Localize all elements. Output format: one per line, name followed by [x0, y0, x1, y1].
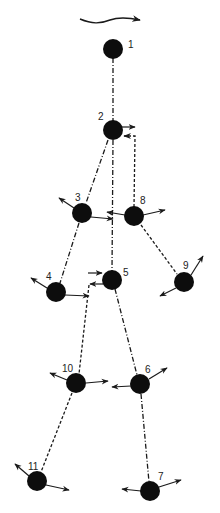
arrow-4-right [65, 295, 89, 296]
node-5 [102, 270, 122, 290]
vector-arrows [15, 127, 203, 491]
edge-10-11 [41, 393, 72, 472]
edge-6-7 [141, 394, 149, 482]
arrow-11-right [46, 485, 69, 490]
arrow-9-up [191, 256, 203, 275]
node-9 [174, 272, 194, 292]
skeleton-diagram: 1 2 3 4 5 6 7 8 9 10 11 [0, 0, 220, 513]
motion-direction-arrow [80, 18, 140, 23]
arrow-8-left [107, 212, 125, 215]
arrow-6-right [149, 368, 167, 379]
arrow-11-upleft [15, 464, 29, 476]
arrow-6-left [112, 386, 131, 387]
edge-2-3 [86, 140, 108, 203]
arrow-9-downleft [160, 288, 176, 296]
arrow-3-upleft [59, 198, 74, 208]
label-4: 4 [46, 271, 52, 282]
arrow-8-right [143, 210, 165, 215]
node-6 [130, 374, 150, 394]
arrow-3-right [91, 217, 113, 219]
node-labels: 1 2 3 4 5 6 7 8 9 10 11 [28, 39, 189, 482]
arrow-7-left [122, 489, 141, 491]
node-2 [103, 120, 123, 140]
node-11 [27, 471, 47, 491]
label-2: 2 [98, 111, 104, 122]
label-6: 6 [145, 364, 151, 375]
edge-3-4 [60, 223, 79, 283]
node-10 [66, 373, 86, 393]
node-3 [72, 203, 92, 223]
node-8 [124, 206, 144, 226]
arrow-4-upleft [31, 278, 47, 288]
edge-8-9 [141, 225, 177, 274]
edge-2-5 [112, 140, 113, 271]
label-5: 5 [123, 267, 129, 278]
label-3: 3 [75, 192, 81, 203]
nodes [27, 39, 194, 501]
edge-5-6 [115, 289, 137, 375]
label-8: 8 [140, 195, 146, 206]
label-11: 11 [28, 461, 39, 472]
label-7: 7 [158, 471, 164, 482]
label-1: 1 [128, 39, 134, 50]
label-10: 10 [62, 363, 74, 374]
edge-5-10 [79, 285, 89, 374]
node-4 [46, 282, 66, 302]
node-7 [140, 481, 160, 501]
arrow-10-right [86, 381, 108, 383]
label-9: 9 [183, 260, 189, 271]
edge-2-8 [124, 136, 135, 207]
arrow-10-left [50, 373, 67, 380]
node-1 [103, 39, 123, 59]
